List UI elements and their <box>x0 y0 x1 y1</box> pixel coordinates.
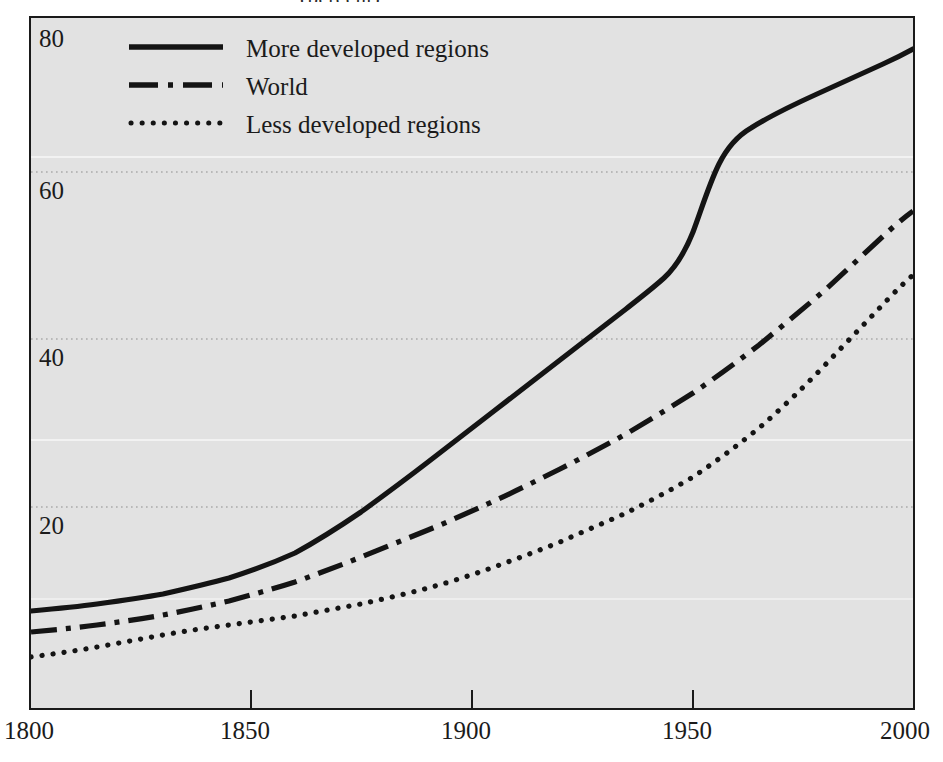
y-tick-label-60: 60 <box>39 178 64 203</box>
dash-dot-line-icon <box>128 78 224 96</box>
y-tick-label-80: 80 <box>39 26 64 51</box>
legend-label-more-developed: More developed regions <box>246 35 489 63</box>
series-line-world <box>31 211 913 632</box>
minor-gridlines <box>31 157 913 599</box>
legend-entry-world: World <box>128 68 548 106</box>
legend-entry-less-developed: Less developed regions <box>128 106 548 144</box>
dotted-line-icon <box>128 116 224 134</box>
legend-label-less-developed: Less developed regions <box>246 111 481 139</box>
y-tick-label-20: 20 <box>39 513 64 538</box>
x-tick-label-1900: 1900 <box>441 718 491 743</box>
y-tick-label-40: 40 <box>39 345 64 370</box>
x-tick-label-1800: 1800 <box>4 718 54 743</box>
x-tick-label-2000: 2000 <box>880 718 930 743</box>
units-caption: (percent) <box>300 0 380 2</box>
solid-line-icon <box>128 40 224 58</box>
x-tick-label-1850: 1850 <box>220 718 270 743</box>
x-axis-ticks <box>251 690 693 708</box>
chart-legend: More developed regions World Less develo… <box>128 30 548 144</box>
legend-entry-more-developed: More developed regions <box>128 30 548 68</box>
x-tick-label-1950: 1950 <box>662 718 712 743</box>
legend-label-world: World <box>246 73 308 101</box>
urban-population-line-chart: (percent) <box>0 0 943 762</box>
gridlines <box>31 172 913 507</box>
